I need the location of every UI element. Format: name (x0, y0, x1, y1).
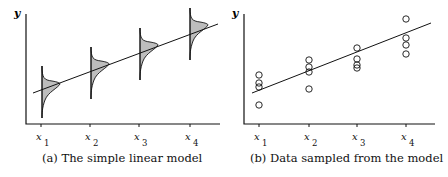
panel-b-xtick-2: x (304, 131, 310, 142)
panel-b (244, 14, 435, 127)
panel-a-caption: (a) The simple linear model (42, 151, 202, 165)
panel-b-xtick-4-sub: 4 (409, 138, 414, 148)
panel-a-distribution-1 (42, 66, 60, 118)
panel-b-xtick-3: x (352, 131, 358, 142)
panel-a-xtick-4: x (185, 131, 191, 142)
panel-b-caption: (b) Data sampled from the model (250, 151, 443, 165)
panel-a-y-label: y (13, 7, 22, 20)
panel-b-xtick-3-sub: 3 (360, 138, 365, 148)
panel-b-axes (244, 14, 435, 124)
panel-a-xtick-3: x (134, 131, 140, 142)
panel-a (26, 8, 220, 127)
panel-b-xtick-1-sub: 1 (262, 138, 267, 148)
panel-b-xtick-2-sub: 2 (312, 138, 317, 148)
panel-a-distribution-4 (190, 8, 208, 60)
panel-b-regression-line (252, 23, 431, 93)
panel-a-xtick-3-sub: 3 (142, 138, 147, 148)
panel-b-xtick-1: x (254, 131, 260, 142)
panel-a-xtick-2: x (85, 131, 91, 142)
panel-a-xtick-2-sub: 2 (93, 138, 98, 148)
panel-a-xtick-1: x (36, 131, 42, 142)
panel-a-xtick-1-sub: 1 (44, 138, 49, 148)
panel-b-xtick-4: x (401, 131, 407, 142)
panel-a-distribution-3 (140, 28, 158, 80)
panel-a-xtick-4-sub: 4 (193, 138, 198, 148)
panel-b-y-label: y (231, 7, 240, 20)
panel-a-distribution-2 (91, 47, 109, 99)
